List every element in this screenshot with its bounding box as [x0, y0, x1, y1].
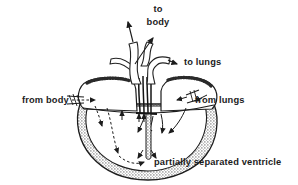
label-to-body-line1: to [140, 3, 176, 16]
label-to-body: to body [140, 3, 176, 29]
partial-septum [146, 114, 151, 159]
label-from-body: from body [22, 95, 69, 107]
label-from-lungs: from lungs [195, 95, 245, 107]
vessel-aorta [129, 42, 141, 84]
label-to-lungs: to lungs [184, 57, 221, 69]
arrow-to-body-left [128, 22, 133, 42]
label-partially-separated-ventricle: partially separated ventricle [154, 157, 281, 169]
label-to-body-line2: body [140, 16, 176, 29]
heart-diagram: to body to lungs from body from lungs pa… [0, 0, 298, 185]
